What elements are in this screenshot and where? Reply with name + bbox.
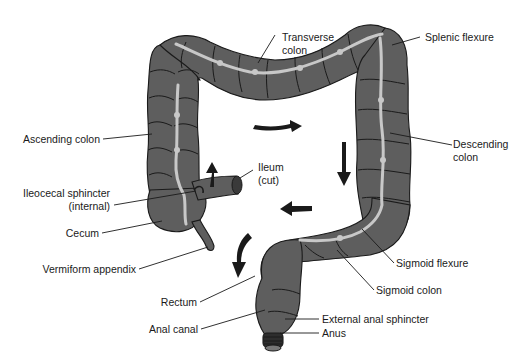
label-cecum: Cecum <box>40 227 99 240</box>
arrow-right-icon <box>253 120 302 132</box>
arrow-down-icon <box>337 142 351 186</box>
anus-shape <box>265 345 281 351</box>
label-ileocecal-sphincter: Ileocecal sphincter (internal) <box>10 187 110 212</box>
label-rectum: Rectum <box>120 296 197 309</box>
label-transverse-colon-line2: colon <box>282 44 334 57</box>
label-transverse-colon: Transverse colon <box>282 31 334 56</box>
label-ileum: Ileum (cut) <box>258 161 284 186</box>
label-ileum-line1: Ileum <box>258 161 284 174</box>
label-ileocecal-sphincter-line2: (internal) <box>10 200 110 213</box>
label-descending-colon-line1: Descending <box>453 138 508 151</box>
appendix-shape <box>192 220 214 251</box>
label-ileocecal-sphincter-line1: Ileocecal sphincter <box>10 187 110 200</box>
label-anus: Anus <box>322 327 346 340</box>
label-splenic-flexure: Splenic flexure <box>425 31 494 44</box>
label-descending-colon: Descending colon <box>453 138 508 163</box>
label-external-anal-sphincter: External anal sphincter <box>322 313 429 326</box>
arrow-left-icon <box>280 201 312 216</box>
label-vermiform-appendix: Vermiform appendix <box>20 263 136 276</box>
arrow-curved-down-icon <box>232 233 252 278</box>
label-ascending-colon: Ascending colon <box>20 133 100 146</box>
label-ileum-line2: (cut) <box>258 174 284 187</box>
label-sigmoid-flexure: Sigmoid flexure <box>396 257 468 270</box>
rectum-shape <box>256 240 302 335</box>
large-intestine-diagram: Transverse colon Splenic flexure Ascendi… <box>0 0 527 360</box>
ileum-shape <box>192 176 238 200</box>
label-anal-canal: Anal canal <box>120 323 198 336</box>
ileum-cut-opening <box>232 176 242 194</box>
label-descending-colon-line2: colon <box>453 151 508 164</box>
label-transverse-colon-line1: Transverse <box>282 31 334 44</box>
label-sigmoid-colon: Sigmoid colon <box>376 284 442 297</box>
